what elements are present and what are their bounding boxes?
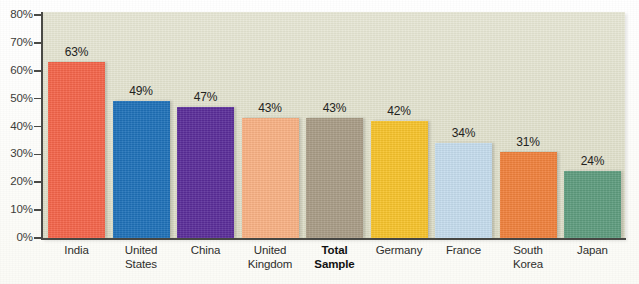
bar-value-label: 47%: [194, 90, 217, 104]
bar-texture: [48, 62, 105, 238]
x-axis-category-label: China: [170, 243, 241, 257]
bar[interactable]: 43%: [242, 118, 299, 238]
category-label-line: States: [106, 257, 177, 271]
bar-chart: 80%70%60%50%40%30%20%10%0% 63%49%47%43%4…: [0, 0, 639, 284]
bar-texture: [564, 171, 621, 238]
bar-texture: [306, 118, 363, 238]
bar-value-label: 43%: [323, 101, 346, 115]
x-axis-category-labels: IndiaUnitedStatesChinaUnitedKingdomTotal…: [0, 243, 639, 284]
x-axis-category-label: UnitedStates: [106, 243, 177, 271]
category-label-line: South: [493, 243, 564, 257]
bar-value-label: 43%: [258, 101, 281, 115]
bar-value-label: 31%: [516, 135, 539, 149]
bar[interactable]: 43%: [306, 118, 363, 238]
bar-texture: [113, 101, 170, 238]
category-label-line: United: [235, 243, 306, 257]
bar-texture: [371, 121, 428, 238]
bar[interactable]: 34%: [435, 143, 492, 238]
bar[interactable]: 42%: [371, 121, 428, 238]
bar-texture: [177, 107, 234, 238]
x-axis-category-label: SouthKorea: [493, 243, 564, 271]
category-label-line: France: [428, 243, 499, 257]
x-axis-category-label: France: [428, 243, 499, 257]
x-axis-category-label: UnitedKingdom: [235, 243, 306, 271]
bar[interactable]: 24%: [564, 171, 621, 238]
bar-value-label: 34%: [452, 126, 475, 140]
bar-value-label: 24%: [581, 154, 604, 168]
bar-value-label: 49%: [129, 84, 152, 98]
bar-value-label: 42%: [387, 104, 410, 118]
category-label-line: China: [170, 243, 241, 257]
category-label-line: Japan: [557, 243, 628, 257]
category-label-line: Sample: [299, 257, 370, 271]
bar[interactable]: 47%: [177, 107, 234, 238]
category-label-line: Kingdom: [235, 257, 306, 271]
bar-texture: [500, 152, 557, 238]
bar[interactable]: 63%: [48, 62, 105, 238]
x-axis-category-label: TotalSample: [299, 243, 370, 271]
category-label-line: Germany: [364, 243, 435, 257]
category-label-line: Total: [299, 243, 370, 257]
bar-texture: [435, 143, 492, 238]
bar[interactable]: 31%: [500, 152, 557, 238]
category-label-line: India: [41, 243, 112, 257]
bar-value-label: 63%: [65, 45, 88, 59]
category-label-line: United: [106, 243, 177, 257]
x-axis-category-label: Germany: [364, 243, 435, 257]
category-label-line: Korea: [493, 257, 564, 271]
x-axis-category-label: Japan: [557, 243, 628, 257]
bars-layer: 63%49%47%43%43%42%34%31%24%: [0, 0, 639, 284]
bar-texture: [242, 118, 299, 238]
x-axis-category-label: India: [41, 243, 112, 257]
bar[interactable]: 49%: [113, 101, 170, 238]
